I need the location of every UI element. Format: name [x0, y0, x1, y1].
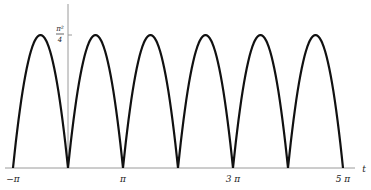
x-tick-label-5pi: 5 π — [336, 174, 352, 184]
y-tick-numerator: π² — [55, 25, 64, 33]
curve-series — [13, 35, 343, 168]
chart: π² 4 −π π 3 π 5 π t — [0, 0, 371, 190]
y-tick-label: π² 4 — [55, 25, 64, 44]
x-tick-label-pi: π — [119, 174, 127, 184]
x-axis-label: t — [362, 164, 366, 174]
x-tick-label-neg-pi: −π — [6, 174, 21, 184]
x-tick-label-3pi: 3 π — [226, 174, 242, 184]
y-tick-denominator: 4 — [57, 36, 62, 44]
